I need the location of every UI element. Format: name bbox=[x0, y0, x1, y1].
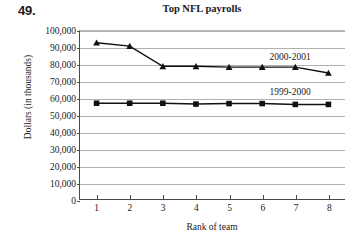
x-axis-label: Rank of team bbox=[79, 222, 345, 232]
data-point-marker bbox=[160, 100, 166, 106]
y-tick-label: 90,000 bbox=[50, 43, 76, 53]
data-point-marker bbox=[259, 101, 265, 107]
data-point-marker bbox=[226, 101, 232, 107]
y-tick-label: 20,000 bbox=[50, 162, 76, 172]
y-tick-label: 10,000 bbox=[50, 179, 76, 189]
data-point-marker bbox=[127, 100, 133, 106]
y-tick-label: 60,000 bbox=[50, 94, 76, 104]
x-tick-label: 1 bbox=[94, 203, 99, 213]
x-tick-label: 4 bbox=[194, 203, 199, 213]
y-tick-label: 80,000 bbox=[50, 60, 76, 70]
x-tick-label: 2 bbox=[128, 203, 133, 213]
data-point-marker bbox=[326, 102, 332, 108]
y-tick-label: 70,000 bbox=[50, 77, 76, 87]
series-label: 2000-2001 bbox=[270, 52, 311, 62]
data-point-marker bbox=[293, 102, 299, 108]
chart-title: Top NFL payrolls bbox=[132, 3, 272, 14]
x-tick-label: 6 bbox=[261, 203, 266, 213]
y-tick-label: 30,000 bbox=[50, 145, 76, 155]
problem-number: 49. bbox=[18, 3, 35, 18]
series-label: 1999-2000 bbox=[270, 87, 311, 97]
y-tick-label: 100,000 bbox=[45, 26, 76, 36]
plot-area: 010,00020,00030,00040,00050,00060,00070,… bbox=[79, 30, 345, 200]
x-tick-label: 3 bbox=[161, 203, 166, 213]
y-tick-mark bbox=[77, 201, 80, 202]
y-tick-label: 40,000 bbox=[50, 128, 76, 138]
chart-figure: 49. Top NFL payrolls Dollars (in thousan… bbox=[0, 0, 360, 241]
y-axis-label: Dollars (in thousands) bbox=[23, 17, 33, 177]
x-tick-label: 8 bbox=[327, 203, 332, 213]
data-point-marker bbox=[193, 101, 199, 107]
data-point-marker bbox=[94, 100, 100, 106]
y-tick-label: 50,000 bbox=[50, 111, 76, 121]
x-tick-label: 5 bbox=[227, 203, 232, 213]
y-tick-label: 0 bbox=[71, 196, 76, 206]
x-tick-label: 7 bbox=[294, 203, 299, 213]
